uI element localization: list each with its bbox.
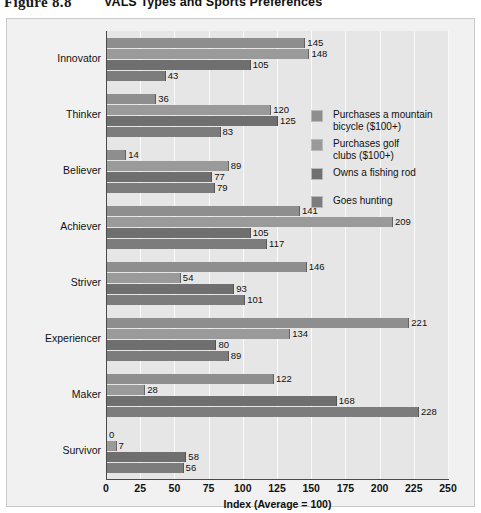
bar[interactable] — [107, 105, 271, 115]
figure-title-text: VALS Types and Sports Preferences — [104, 0, 322, 9]
bar-row[interactable]: 122 — [107, 374, 449, 384]
bar[interactable] — [107, 441, 117, 451]
legend-item[interactable]: Owns a fishing rod — [311, 167, 451, 189]
bar[interactable] — [107, 340, 216, 350]
bar-value-label: 36 — [156, 94, 169, 104]
legend-swatch-icon — [311, 168, 323, 180]
x-tick-175: 175 — [337, 482, 355, 494]
x-tick-50: 50 — [169, 482, 181, 494]
bar[interactable] — [107, 172, 212, 182]
legend-item[interactable]: Purchases golfclubs ($100+) — [311, 138, 451, 161]
bar-row[interactable]: 7 — [107, 441, 449, 451]
bar-value-label: 125 — [278, 116, 296, 126]
bar[interactable] — [107, 161, 229, 171]
bar-row[interactable]: 134 — [107, 329, 449, 339]
bar[interactable] — [107, 116, 278, 126]
bar[interactable] — [107, 407, 419, 417]
bar-row[interactable]: 80 — [107, 340, 449, 350]
bar-row[interactable]: 56 — [107, 463, 449, 473]
x-tick-250: 250 — [439, 482, 457, 494]
bar[interactable] — [107, 127, 221, 137]
bar-row[interactable]: 89 — [107, 351, 449, 361]
bar-value-label: 7 — [117, 441, 124, 451]
bar-value-label: 105 — [251, 60, 269, 70]
legend-item[interactable]: Purchases a mountainbicycle ($100+) — [311, 109, 451, 132]
legend-item[interactable]: Goes hunting — [311, 195, 451, 217]
category-label-maker: Maker — [11, 388, 101, 400]
bar-row[interactable]: 0 — [107, 430, 449, 440]
x-tick-150: 150 — [302, 482, 320, 494]
figure-page: Figure 8.8 VALS Types and Sports Prefere… — [0, 0, 481, 513]
bar-row[interactable]: 148 — [107, 49, 449, 59]
x-tick-200: 200 — [371, 482, 389, 494]
bar-row[interactable]: 228 — [107, 407, 449, 417]
bar-value-label: 117 — [267, 239, 284, 249]
bar[interactable] — [107, 284, 234, 294]
bar-value-label: 79 — [215, 183, 228, 193]
bar-row[interactable]: 28 — [107, 385, 449, 395]
bar-value-label: 122 — [274, 374, 292, 384]
legend-swatch-icon — [311, 110, 323, 122]
bar-value-label: 54 — [181, 273, 194, 283]
bar[interactable] — [107, 60, 251, 70]
bar[interactable] — [107, 318, 409, 328]
bar[interactable] — [107, 262, 307, 272]
bar[interactable] — [107, 206, 300, 216]
bar-row[interactable]: 117 — [107, 239, 449, 249]
bar[interactable] — [107, 239, 267, 249]
figure-number: Figure 8.8 — [4, 0, 72, 11]
bar-value-label: 101 — [245, 295, 263, 305]
x-axis-ticks: 0255075100125150175200225250 — [106, 482, 449, 498]
bar-row[interactable]: 105 — [107, 228, 449, 238]
bar[interactable] — [107, 273, 181, 283]
bar-row[interactable]: 221 — [107, 318, 449, 328]
x-axis-title: Index (Average = 100) — [106, 498, 449, 510]
bar-group: Striver1465493101 — [106, 255, 448, 311]
x-tick-75: 75 — [203, 482, 215, 494]
bar-row[interactable]: 168 — [107, 396, 449, 406]
bar-value-label: 105 — [251, 228, 269, 238]
bar[interactable] — [107, 295, 245, 305]
figure-title: Figure 8.8 VALS Types and Sports Prefere… — [0, 0, 481, 14]
bar-row[interactable]: 54 — [107, 273, 449, 283]
bar-row[interactable]: 36 — [107, 94, 449, 104]
bar[interactable] — [107, 71, 166, 81]
bar-value-label: 93 — [234, 284, 247, 294]
bar-value-label: 14 — [126, 150, 139, 160]
bar-value-label: 77 — [212, 172, 225, 182]
bar-row[interactable]: 146 — [107, 262, 449, 272]
bar[interactable] — [107, 94, 156, 104]
bar[interactable] — [107, 150, 126, 160]
x-tick-0: 0 — [103, 482, 109, 494]
bar[interactable] — [107, 351, 229, 361]
bar-row[interactable]: 93 — [107, 284, 449, 294]
category-label-survivor: Survivor — [11, 444, 101, 456]
bar-row[interactable]: 105 — [107, 60, 449, 70]
bar[interactable] — [107, 452, 186, 462]
bar-value-label: 228 — [419, 407, 437, 417]
bar-value-label: 168 — [337, 396, 355, 406]
legend-label: Purchases a mountain — [333, 109, 451, 121]
bar-value-label: 145 — [305, 38, 323, 48]
bar-row[interactable]: 101 — [107, 295, 449, 305]
bar-row[interactable]: 145 — [107, 38, 449, 48]
bar[interactable] — [107, 463, 184, 473]
bar[interactable] — [107, 38, 305, 48]
bar[interactable] — [107, 374, 274, 384]
bar[interactable] — [107, 228, 251, 238]
bar[interactable] — [107, 329, 290, 339]
bar[interactable] — [107, 385, 145, 395]
bar[interactable] — [107, 183, 215, 193]
category-label-believer: Believer — [11, 164, 101, 176]
bar-value-label: 0 — [107, 430, 114, 440]
bar[interactable] — [107, 396, 337, 406]
x-tick-25: 25 — [134, 482, 146, 494]
bar[interactable] — [107, 49, 309, 59]
category-label-thinker: Thinker — [11, 108, 101, 120]
bar-row[interactable]: 43 — [107, 71, 449, 81]
legend-label-continued: clubs ($100+) — [333, 150, 451, 162]
x-tick-225: 225 — [405, 482, 423, 494]
legend-label-continued: bicycle ($100+) — [333, 121, 451, 133]
bar-row[interactable]: 58 — [107, 452, 449, 462]
bar-value-label: 89 — [229, 161, 242, 171]
